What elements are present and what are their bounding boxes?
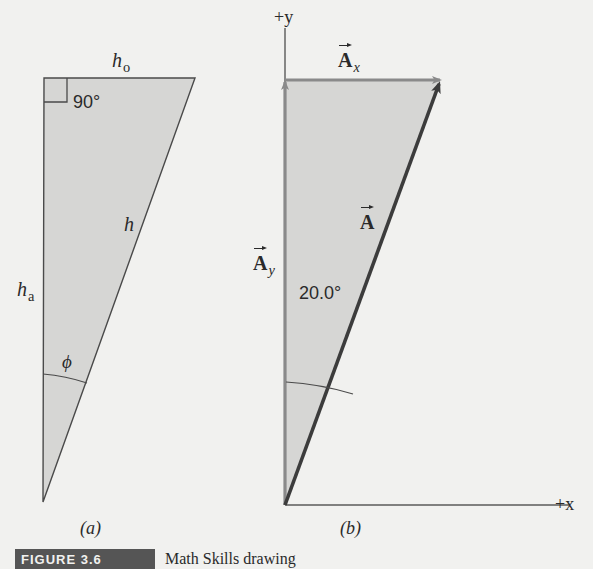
vector-ay-letter: A (253, 252, 267, 274)
vector-arrow-icon (254, 246, 267, 252)
x-axis-label: +x (555, 495, 574, 513)
panel-a-triangle (43, 78, 195, 502)
vector-ay-symbol: A (253, 253, 267, 273)
panel-b-caption: (b) (340, 519, 361, 537)
vector-ax-subscript: x (353, 59, 359, 75)
y-axis-label: +y (274, 8, 293, 26)
figure-number: FIGURE 3.6 (21, 552, 102, 567)
triangle-a-shape (43, 78, 195, 502)
vector-arrow-icon (339, 43, 352, 49)
vector-a-label: A (360, 212, 374, 232)
vector-ax-letter: A (338, 49, 352, 71)
opposite-symbol: h (112, 49, 122, 71)
vector-a-letter: A (360, 211, 374, 233)
x-axis-text: +x (555, 494, 574, 514)
right-angle-label: 90° (73, 93, 100, 111)
vector-ax-label: Ax (338, 50, 360, 70)
opposite-subscript: o (123, 59, 130, 75)
figure-number-badge: FIGURE 3.6 (15, 549, 155, 569)
figure-caption-text: Math Skills drawing (165, 550, 296, 568)
vector-arrow-icon (361, 205, 374, 211)
opposite-side-label: ho (112, 50, 130, 70)
panel-a-caption: (a) (80, 519, 101, 537)
vector-ax-symbol: A (338, 50, 352, 70)
vector-ay-subscript: y (268, 262, 274, 278)
phi-angle-label: ϕ (62, 352, 72, 371)
adjacent-symbol: h (17, 278, 27, 300)
y-axis-text: +y (274, 7, 293, 27)
hypotenuse-label: h (124, 214, 134, 234)
vector-ay-label: Ay (253, 253, 275, 273)
hypotenuse-symbol: h (124, 213, 134, 235)
adjacent-side-label: ha (17, 279, 34, 299)
vector-a-symbol: A (360, 212, 374, 232)
adjacent-subscript: a (28, 288, 34, 304)
theta-angle-label: 20.0° (299, 284, 341, 302)
panel-b-vectors (285, 28, 570, 505)
